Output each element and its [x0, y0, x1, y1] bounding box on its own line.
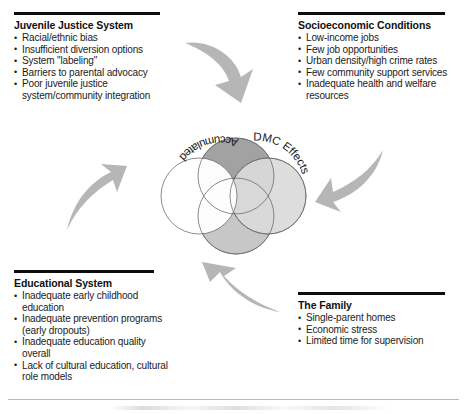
list-item: •Few job opportunities: [298, 44, 448, 56]
list-item: •Inadequate health and welfare resources: [298, 78, 448, 101]
arrow-shape: [185, 42, 253, 103]
list-item-label: Limited time for supervision: [306, 335, 424, 346]
venn-diagram: Accumulated DMC Effects: [150, 126, 322, 266]
list-item: •Racial/ethnic bias: [14, 32, 164, 44]
list-item-label: Poor juvenile justice system/community i…: [22, 78, 150, 101]
list-item: •Inadequate early childhood education: [14, 290, 174, 313]
list-item: •Urban density/high crime rates: [298, 55, 448, 67]
scan-artifact: [110, 406, 390, 410]
bullet-icon: •: [14, 32, 17, 44]
bullet-icon: •: [298, 312, 301, 324]
bullet-icon: •: [298, 66, 301, 78]
factor-list: •Single-parent homes •Economic stress •L…: [298, 312, 453, 347]
venn-circle-left: [161, 158, 237, 234]
factor-list: •Low-income jobs •Few job opportunities …: [298, 32, 448, 102]
list-item-label: Barriers to parental advocacy: [22, 67, 148, 78]
factor-block-juvenile-justice: Juvenile Justice System •Racial/ethnic b…: [14, 12, 164, 102]
bullet-icon: •: [14, 313, 17, 325]
block-heading: Socioeconomic Conditions: [298, 19, 448, 31]
block-heading: Juvenile Justice System: [14, 19, 164, 31]
bullet-icon: •: [14, 55, 17, 67]
list-item-label: Few job opportunities: [306, 44, 398, 55]
arrow-shape: [202, 262, 280, 312]
list-item: •Inadequate prevention programs (early d…: [14, 313, 174, 336]
factor-block-family: The Family •Single-parent homes •Economi…: [298, 292, 453, 347]
arrow-shape: [67, 164, 127, 230]
list-item: •Inadequate education quality overall: [14, 336, 174, 359]
list-item: •System "labeling": [14, 55, 164, 67]
bullet-icon: •: [298, 78, 301, 90]
factor-list: •Inadequate early childhood education •I…: [14, 290, 174, 383]
arrow-juvenile-justice-to-center: [183, 33, 261, 107]
heading-rule: [298, 292, 445, 295]
list-item-label: Inadequate prevention programs (early dr…: [22, 313, 162, 336]
list-item-label: System "labeling": [22, 55, 97, 66]
bullet-icon: •: [298, 32, 301, 44]
list-item-label: Urban density/high crime rates: [306, 55, 437, 66]
bullet-icon: •: [298, 55, 301, 67]
list-item: •Few community support services: [298, 67, 448, 79]
list-item: •Single-parent homes: [298, 312, 453, 324]
list-item-label: Economic stress: [306, 324, 377, 335]
bullet-icon: •: [14, 43, 17, 55]
bullet-icon: •: [14, 359, 17, 371]
list-item: •Barriers to parental advocacy: [14, 67, 164, 79]
list-item-label: Inadequate education quality overall: [22, 336, 146, 359]
bullet-icon: •: [14, 78, 17, 90]
bullet-icon: •: [14, 290, 17, 302]
factor-block-educational: Educational System •Inadequate early chi…: [14, 270, 174, 383]
arrow-shape: [315, 150, 383, 212]
list-item: •Insufficient diversion options: [14, 44, 164, 56]
list-item-label: Single-parent homes: [306, 312, 395, 323]
bullet-icon: •: [298, 323, 301, 335]
list-item: •Low-income jobs: [298, 32, 448, 44]
bullet-icon: •: [298, 335, 301, 347]
list-item-label: Lack of cultural education, cultural rol…: [22, 360, 168, 383]
heading-rule: [14, 12, 160, 15]
list-item: •Limited time for supervision: [298, 335, 453, 347]
factor-list: •Racial/ethnic bias •Insufficient divers…: [14, 32, 164, 102]
arrow-educational-to-center: [65, 160, 127, 232]
list-item-label: Inadequate health and welfare resources: [306, 78, 436, 101]
list-item: •Lack of cultural education, cultural ro…: [14, 360, 174, 383]
bullet-icon: •: [14, 66, 17, 78]
heading-rule: [14, 270, 154, 273]
list-item: •Economic stress: [298, 324, 453, 336]
diagram-canvas: Juvenile Justice System •Racial/ethnic b…: [0, 0, 467, 414]
list-item-label: Few community support services: [306, 67, 447, 78]
bullet-icon: •: [298, 43, 301, 55]
factor-block-socioeconomic: Socioeconomic Conditions •Low-income job…: [298, 12, 448, 102]
list-item-label: Racial/ethnic bias: [22, 32, 98, 43]
arrow-socioeconomic-to-center: [315, 148, 387, 214]
page-divider-rule: [8, 399, 459, 400]
bullet-icon: •: [14, 336, 17, 348]
heading-rule: [298, 12, 445, 15]
list-item-label: Insufficient diversion options: [22, 44, 143, 55]
list-item-label: Inadequate early childhood education: [22, 290, 138, 313]
list-item: •Poor juvenile justice system/community …: [14, 78, 164, 101]
block-heading: The Family: [298, 299, 453, 311]
arrow-family-to-center: [198, 262, 282, 316]
block-heading: Educational System: [14, 277, 174, 289]
list-item-label: Low-income jobs: [306, 32, 379, 43]
